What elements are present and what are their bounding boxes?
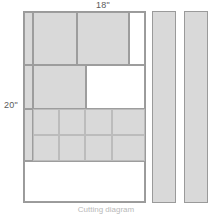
bottom-empty-area [24,161,145,202]
middle-gray-block [33,65,86,109]
grid-left-narrow-strip [24,109,33,161]
middle-left-narrow-strip [24,65,33,109]
left-narrow-strip [24,12,33,65]
grid-cell-r2c3 [85,135,112,161]
grid-cell-r2c2 [59,135,85,161]
diagram-caption: Cutting diagram [0,204,212,215]
side-strip-2 [184,11,208,203]
grid-cell-r1c2 [59,109,85,135]
main-fabric-panel [23,11,146,203]
grid-cell-r1c4 [112,109,145,135]
upper-large-block-left [33,12,77,65]
cutting-diagram: 18" 20" Cutting diagram [0,0,212,215]
height-dimension-label: 20" [4,100,18,110]
middle-white-block [86,65,145,109]
side-strip-1 [152,11,176,203]
width-dimension-label: 18" [96,0,110,10]
grid-cell-r1c3 [85,109,112,135]
grid-cell-r1c1 [33,109,59,135]
grid-cell-r2c1 [33,135,59,161]
upper-large-block-right [77,12,129,65]
grid-cell-r2c4 [112,135,145,161]
upper-right-margin [129,12,145,65]
